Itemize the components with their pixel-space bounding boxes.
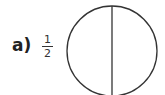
divided-circle-figure [0,0,165,95]
